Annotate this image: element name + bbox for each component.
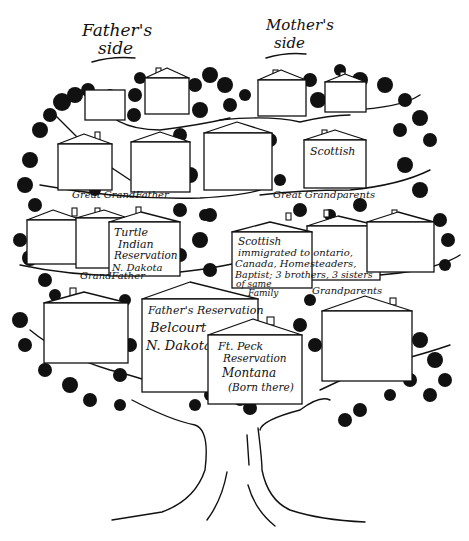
svg-text:side: side [98, 38, 133, 58]
label-grandparents: Grandparents [312, 285, 382, 296]
label-great-grandparents: Great Grandparents [273, 189, 375, 200]
label-great-grandfather: Great GrandFather [72, 189, 170, 200]
house-row-1 [85, 68, 366, 120]
svg-text:immigrated to ontario,: immigrated to ontario, [238, 247, 353, 258]
svg-text:Belcourt: Belcourt [149, 320, 207, 335]
svg-text:Scottish: Scottish [310, 145, 355, 158]
svg-text:(Born there): (Born there) [228, 381, 294, 393]
svg-text:Family: Family [247, 288, 279, 298]
house-gg-right: Scottish [304, 130, 366, 188]
mothers-side-header: Mother's side [265, 16, 334, 58]
svg-text:Reservation: Reservation [113, 249, 178, 261]
house-p-right [322, 296, 412, 381]
house-row-2: Scottish [58, 122, 366, 192]
family-tree-diagram: Father's side Mother's side [0, 0, 469, 541]
house-gg-top-center-right [258, 70, 306, 116]
svg-text:side: side [274, 34, 305, 52]
svg-text:Canada, Homesteaders,: Canada, Homesteaders, [235, 258, 356, 269]
house-g-right-3 [367, 210, 434, 272]
house-row-4: Father's Reservation Belcourt N. Dakota … [44, 282, 412, 404]
house-gg-top-center-left [145, 68, 189, 114]
svg-text:Mother's: Mother's [265, 16, 334, 34]
svg-text:Father's: Father's [81, 20, 152, 40]
svg-text:Father's Reservation: Father's Reservation [147, 304, 264, 317]
label-grandfather: GrandFather [80, 270, 146, 281]
fathers-side-header: Father's side [81, 20, 152, 62]
svg-text:N. Dakota: N. Dakota [145, 338, 212, 353]
svg-text:Reservation: Reservation [222, 352, 287, 364]
underline [92, 58, 135, 63]
svg-text:Montana: Montana [221, 366, 276, 380]
house-p-left [44, 288, 128, 363]
house-gg-left-1 [58, 132, 112, 190]
house-gg-left-2 [131, 132, 190, 192]
house-gg-top-left [85, 90, 125, 120]
house-gg-center [204, 122, 272, 190]
svg-text:Scottish: Scottish [238, 235, 281, 247]
house-p-mother: Ft. Peck Reservation Montana (Born there… [208, 317, 302, 404]
tree-trunk [112, 399, 365, 526]
house-g-left-1 [27, 208, 82, 264]
underline [266, 54, 306, 59]
